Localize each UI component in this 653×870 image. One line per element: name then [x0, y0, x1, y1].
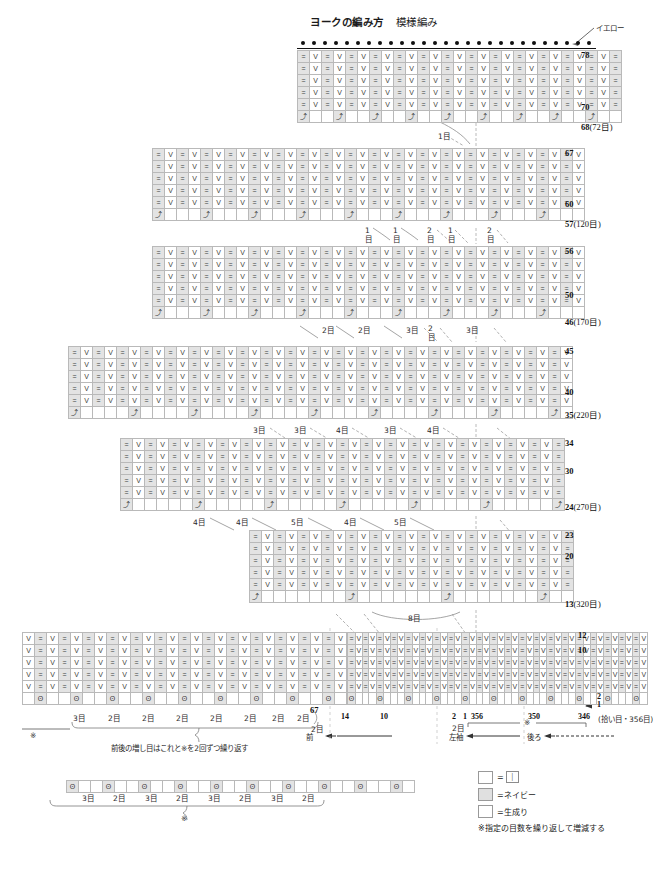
cell-knit: V	[129, 383, 141, 395]
row-label-45: 45	[565, 346, 574, 356]
increase-note-f1: 2目	[108, 712, 120, 723]
cell-empty	[381, 209, 393, 221]
cell-knit: V	[526, 645, 533, 657]
stitch-grid[interactable]: =V=V=V=V=V=V=V=V=V=V=V=V=V=V=V=V=V=V=V=V…	[68, 346, 573, 419]
cell-knit: V	[454, 681, 461, 693]
stitch-grid[interactable]: =V=V=V=V=V=V=V=V=V=V=V=V=V==V=V=V=V=V=V=…	[249, 530, 574, 603]
cell-empty	[310, 591, 322, 603]
cell-purl: =	[35, 669, 47, 681]
cell-knit: V	[477, 247, 489, 259]
cell-purl: =	[465, 161, 477, 173]
cell-purl: =	[418, 75, 430, 87]
cell-purl: =	[538, 567, 550, 579]
cell-purl: =	[309, 371, 321, 383]
cell-purl: =	[298, 99, 310, 111]
stitch-grid[interactable]: =V=V=V=V=V=V=V=V=V=V=V=V=V=V=V=V=V=V=V=V…	[152, 246, 585, 319]
stitch-grid[interactable]: V=V=V=V=V=V=V=V=V=V=V=V=V=V=V=V=V=V=V=V=…	[340, 632, 648, 705]
cell-knit: V	[381, 173, 393, 185]
cell-purl: =	[562, 567, 574, 579]
cell-knit: V	[177, 359, 189, 371]
cell-empty	[177, 209, 189, 221]
cell-purl: =	[59, 669, 71, 681]
cell-empty	[177, 307, 189, 319]
cell-knit: V	[201, 371, 213, 383]
cell-knit: V	[191, 681, 203, 693]
cell-knit: V	[525, 283, 537, 295]
cell-purl: =	[514, 51, 526, 63]
row-label-68: 68(72目)	[581, 120, 613, 132]
cell-purl: =	[405, 359, 417, 371]
cell-purl: =	[321, 259, 333, 271]
cell-empty	[309, 209, 321, 221]
shaping-row: ʘʘʘʘʘʘʘʘʘʘ	[67, 781, 415, 793]
cell-knit: V	[465, 395, 477, 407]
cell-knit: V	[237, 295, 249, 307]
stitch-grid[interactable]: =V=V=V=V=V=V=V=V=V=V=V=V=V=V=V=V=V=V=V=V…	[152, 148, 585, 221]
cell-purl: =	[273, 247, 285, 259]
cell-knit: V	[334, 51, 346, 63]
cell-knit: V	[373, 463, 385, 475]
cell-purl: =	[309, 395, 321, 407]
cell-knit: V	[517, 451, 529, 463]
stitch-grid[interactable]: =V=V=V=V=V=V=V=V=V=V=V=V=V==V=V=V=V=V=V=…	[297, 50, 622, 123]
stitch-grid[interactable]: V=V=V=V=V=V=V=V=V=V=V=V=V=VV=V=V=V=V=V=V…	[22, 632, 347, 705]
cell-purl: =	[227, 633, 239, 645]
cell-purl: =	[201, 161, 213, 173]
chart-block-5[interactable]: =V=V=V=V=V=V=V=V=V=V=V=V=V=V=V=V=V=V==V=…	[120, 438, 565, 511]
castoff-dot-icon	[554, 41, 558, 45]
cell-knit: V	[355, 633, 362, 645]
chart-block-2[interactable]: =V=V=V=V=V=V=V=V=V=V=V=V=V=V=V=V=V=V=V=V…	[152, 148, 585, 221]
cell-empty	[562, 693, 569, 705]
cell-purl: =	[297, 271, 309, 283]
cell-knit: V	[309, 271, 321, 283]
decrease-note-b5-3: 4目	[344, 516, 356, 527]
cell-purl: =	[313, 439, 325, 451]
cell-knit: V	[95, 669, 107, 681]
castoff-dot-icon	[499, 41, 503, 45]
cell-decrease: ⤴	[409, 499, 421, 511]
chart-block-4[interactable]: =V=V=V=V=V=V=V=V=V=V=V=V=V=V=V=V=V=V=V=V…	[68, 346, 573, 419]
cell-knit: V	[335, 645, 347, 657]
cell-purl: =	[466, 75, 478, 87]
cell-knit: V	[384, 633, 391, 645]
chart-block-1[interactable]: =V=V=V=V=V=V=V=V=V=V=V=V=V==V=V=V=V=V=V=…	[297, 50, 622, 123]
cell-purl: =	[121, 475, 133, 487]
cell-knit: V	[47, 669, 59, 681]
cell-purl: =	[275, 669, 287, 681]
cell-knit: V	[430, 531, 442, 543]
cell-empty	[213, 407, 225, 419]
cell-empty	[165, 209, 177, 221]
cell-purl: =	[249, 271, 261, 283]
chart-block-front[interactable]: V=V=V=V=V=V=V=V=V=V=V=V=V=VV=V=V=V=V=V=V…	[22, 632, 347, 705]
cell-knit: V	[213, 173, 225, 185]
chart-block-3[interactable]: =V=V=V=V=V=V=V=V=V=V=V=V=V=V=V=V=V=V=V=V…	[152, 246, 585, 319]
cell-purl: =	[477, 395, 489, 407]
cell-knit: V	[334, 99, 346, 111]
cell-knit: V	[406, 543, 418, 555]
cell-purl: =	[418, 87, 430, 99]
stitch-row: =V=V=V=V=V=V=V=V=V=V=V=V=V=V=V=V=V=V=	[121, 451, 565, 463]
cell-purl: =	[35, 657, 47, 669]
cell-empty	[625, 693, 632, 705]
cell-decrease: ⤴	[346, 591, 358, 603]
cell-increase: ʘ	[323, 693, 335, 705]
cell-empty	[476, 693, 483, 705]
castoff-dot-icon	[323, 41, 327, 45]
cell-purl: =	[489, 149, 501, 161]
cell-knit: V	[573, 295, 585, 307]
chart-block-6[interactable]: =V=V=V=V=V=V=V=V=V=V=V=V=V==V=V=V=V=V=V=…	[249, 530, 574, 603]
cell-knit: V	[381, 283, 393, 295]
cell-knit: V	[417, 347, 429, 359]
cell-purl: =	[298, 555, 310, 567]
cell-empty	[309, 307, 321, 319]
stitch-grid[interactable]: =V=V=V=V=V=V=V=V=V=V=V=V=V=V=V=V=V=V==V=…	[120, 438, 565, 511]
cell-knit: V	[477, 259, 489, 271]
cell-purl: =	[155, 657, 167, 669]
cell-knit: V	[489, 347, 501, 359]
cell-increase: ʘ	[283, 781, 295, 793]
chart-block-7[interactable]: V=V=V=V=V=V=V=V=V=V=V=V=V=V=V=V=V=V=V=V=…	[340, 632, 648, 705]
cell-empty	[358, 591, 370, 603]
cell-purl: =	[433, 487, 445, 499]
cell-purl: =	[333, 371, 345, 383]
cell-empty	[133, 499, 145, 511]
